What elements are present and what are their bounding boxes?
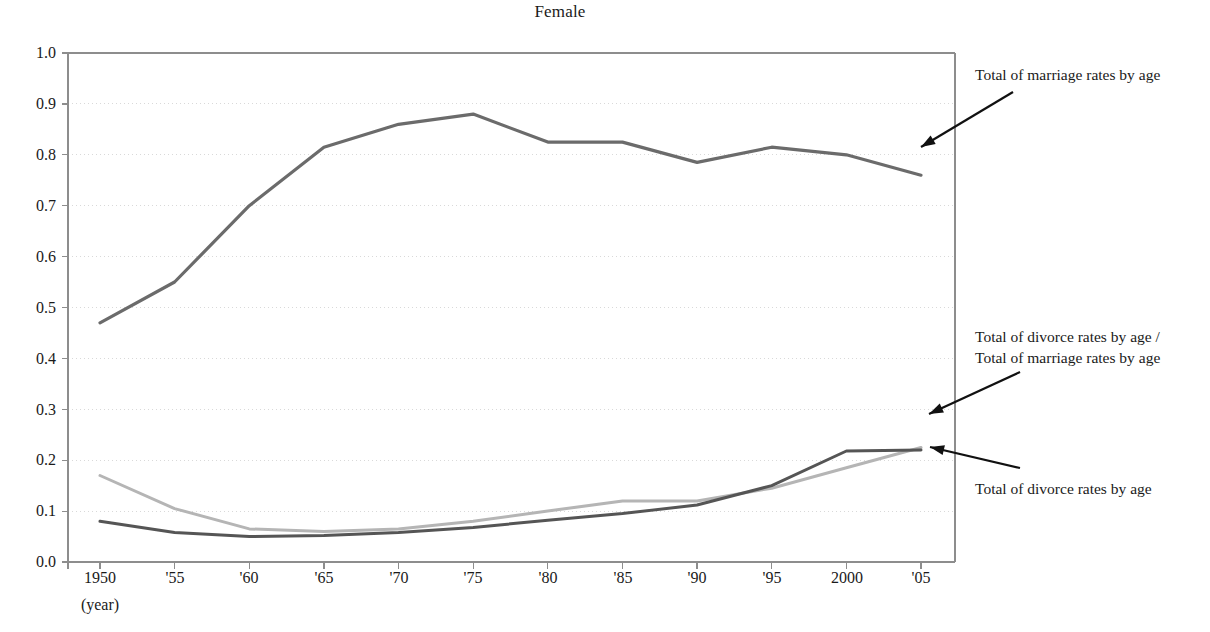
x-tick-label: '80 — [513, 570, 583, 586]
data-series — [100, 114, 921, 536]
y-tick-label: 0.4 — [12, 351, 56, 367]
annotation-line: Total of marriage rates by age — [975, 64, 1160, 85]
x-tick-label: '70 — [364, 570, 434, 586]
y-tick-label: 0.5 — [12, 300, 56, 316]
plot-canvas — [0, 0, 1210, 632]
x-tick-label: '55 — [140, 570, 210, 586]
annotation-line: Total of divorce rates by age — [975, 478, 1152, 499]
x-axis-unit-label: (year) — [65, 596, 135, 614]
gridlines — [68, 53, 955, 511]
y-tick-label: 0.6 — [12, 249, 56, 265]
annotation-arrows — [921, 92, 1020, 468]
y-tick-label: 0.0 — [12, 554, 56, 570]
annotation-line: Total of marriage rates by age — [975, 347, 1160, 368]
x-tick-label: '65 — [289, 570, 359, 586]
annotation-divorce-rates: Total of divorce rates by age — [975, 478, 1152, 499]
chart-figure: Female 1.0 0.9 0.8 0.7 0.6 0.5 0.4 0.3 0… — [0, 0, 1210, 632]
y-tick-label: 0.2 — [12, 452, 56, 468]
y-axis-ticks — [62, 53, 68, 562]
annotation-line: Total of divorce rates by age / — [975, 326, 1160, 347]
x-tick-label: '90 — [662, 570, 732, 586]
x-tick-label: '75 — [438, 570, 508, 586]
y-tick-label: 0.7 — [12, 198, 56, 214]
x-tick-label: '95 — [737, 570, 807, 586]
x-tick-label: '60 — [214, 570, 284, 586]
x-tick-label: '05 — [886, 570, 956, 586]
y-tick-label: 1.0 — [12, 45, 56, 61]
annotation-divorce-over-marriage: Total of divorce rates by age / Total of… — [975, 326, 1160, 368]
x-axis-ticks — [68, 562, 921, 569]
x-tick-label: 2000 — [812, 570, 882, 586]
annotation-marriage-rates: Total of marriage rates by age — [975, 64, 1160, 85]
y-tick-label: 0.1 — [12, 503, 56, 519]
x-tick-label: '85 — [588, 570, 658, 586]
x-tick-label: 1950 — [65, 570, 135, 586]
y-tick-label: 0.9 — [12, 96, 56, 112]
y-tick-label: 0.8 — [12, 147, 56, 163]
y-tick-label: 0.3 — [12, 402, 56, 418]
